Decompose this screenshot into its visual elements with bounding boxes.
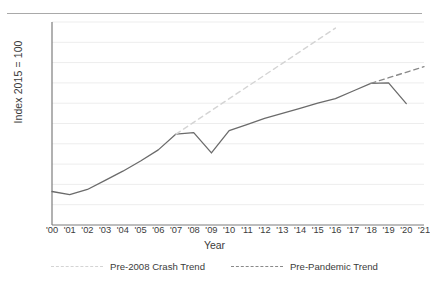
x-tick-label: '17	[347, 225, 359, 235]
legend-label-crash-trend: Pre-2008 Crash Trend	[110, 261, 205, 272]
chart-canvas	[0, 18, 429, 233]
x-tick-label: '04	[117, 225, 129, 235]
x-tick-label: '07	[170, 225, 182, 235]
x-tick-label: '21	[418, 225, 430, 235]
header-divider	[7, 13, 422, 14]
x-tick-label: '10	[223, 225, 235, 235]
x-axis-tick-labels: '00'01'02'03'04'05'06'07'08'09'10'11'12'…	[0, 225, 429, 239]
series-actual-index	[52, 83, 406, 195]
legend-swatch-pandemic-trend-icon	[231, 266, 283, 267]
x-tick-label: '03	[99, 225, 111, 235]
x-tick-label: '06	[152, 225, 164, 235]
legend-item-crash-trend[interactable]: Pre-2008 Crash Trend	[51, 261, 205, 272]
x-tick-label: '09	[205, 225, 217, 235]
x-tick-label: '20	[400, 225, 412, 235]
x-tick-label: '11	[241, 225, 252, 235]
series-pre-pandemic-trend	[371, 67, 424, 84]
series-pre-2008-crash-trend	[176, 28, 335, 134]
x-tick-label: '08	[188, 225, 200, 235]
x-tick-label: '12	[259, 225, 271, 235]
x-tick-label: '00	[46, 225, 58, 235]
legend-swatch-crash-trend-icon	[51, 266, 103, 267]
x-tick-label: '15	[312, 225, 324, 235]
legend-item-pandemic-trend[interactable]: Pre-Pandemic Trend	[231, 261, 378, 272]
x-tick-label: '02	[81, 225, 93, 235]
x-tick-label: '18	[365, 225, 377, 235]
x-tick-label: '05	[135, 225, 147, 235]
plot-area	[0, 18, 429, 233]
legend-label-pandemic-trend: Pre-Pandemic Trend	[290, 261, 378, 272]
x-axis-title: Year	[0, 239, 429, 251]
chart-legend: Pre-2008 Crash Trend Pre-Pandemic Trend	[0, 261, 429, 272]
x-tick-label: '19	[383, 225, 395, 235]
x-tick-label: '16	[329, 225, 341, 235]
x-tick-label: '01	[64, 225, 76, 235]
x-tick-label: '13	[276, 225, 288, 235]
x-tick-label: '14	[294, 225, 306, 235]
